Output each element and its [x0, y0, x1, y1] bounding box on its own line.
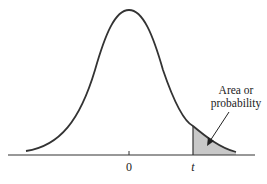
annotation-arrow [210, 112, 229, 141]
density-curve [26, 10, 236, 152]
t-distribution-chart: 0 t Area or probability [0, 0, 267, 184]
annotation-line2: probability [211, 97, 262, 110]
t-label: t [191, 160, 195, 174]
annotation-line1: Area or [219, 84, 254, 96]
zero-label: 0 [126, 160, 132, 174]
